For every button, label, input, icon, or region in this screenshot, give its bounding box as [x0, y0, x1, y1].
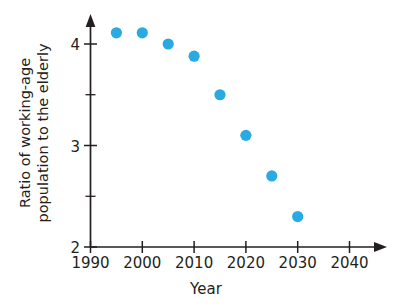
data-point	[137, 27, 148, 38]
y-axis-title-line-2: population to the elderly	[35, 43, 51, 222]
data-point	[189, 51, 200, 62]
x-tick-label-2000: 2000	[123, 254, 161, 272]
x-axis-arrowhead	[374, 242, 387, 252]
data-point	[111, 27, 122, 38]
x-tick-label-2010: 2010	[175, 254, 213, 272]
x-tick-label-2020: 2020	[227, 254, 265, 272]
y-axis	[86, 14, 96, 248]
y-tick-label-4: 4	[70, 36, 80, 54]
x-axis-tick-labels: 1990 2000 2010 2020 2030 2040	[71, 254, 368, 272]
data-point	[240, 130, 251, 141]
data-point	[292, 211, 303, 222]
x-tick-label-2040: 2040	[330, 254, 368, 272]
y-tick-label-3: 3	[70, 138, 80, 156]
data-point	[266, 170, 277, 181]
x-tick-label-2030: 2030	[279, 254, 317, 272]
x-axis-title: Year	[189, 280, 223, 298]
scatter-chart-figure: 4 3 2 1990 2000 2010 2020 2030 2040 Year…	[0, 0, 397, 306]
y-axis-title: Ratio of working-age population to the e…	[17, 43, 51, 222]
x-axis	[91, 242, 388, 252]
data-point-group	[111, 27, 304, 222]
data-point	[214, 89, 225, 100]
chart-canvas: 4 3 2 1990 2000 2010 2020 2030 2040 Year…	[0, 0, 397, 306]
y-axis-arrowhead	[86, 14, 96, 27]
y-axis-tick-labels: 4 3 2	[70, 36, 80, 257]
x-tick-label-1990: 1990	[71, 254, 109, 272]
y-axis-title-line-1: Ratio of working-age	[17, 58, 33, 208]
data-point	[163, 38, 174, 49]
